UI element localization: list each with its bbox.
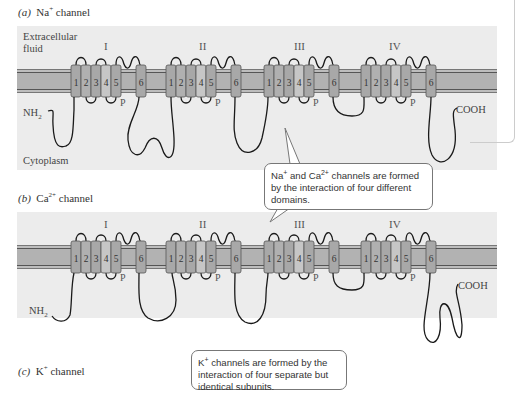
callout-line3: domains. [271,194,426,206]
svg-text:3: 3 [189,78,194,88]
svg-text:4: 4 [394,254,399,264]
callout-line3: identical subunits. [198,381,340,393]
svg-text:5: 5 [404,78,409,88]
svg-text:2: 2 [84,78,89,88]
callout-na-ca: Na+ and Ca2+ channels are formed by the … [264,163,433,210]
callout-k: K+ channels are formed by the interactio… [191,350,347,390]
svg-text:P: P [410,97,416,108]
svg-text:2: 2 [84,254,89,264]
svg-text:6: 6 [234,254,239,264]
svg-text:1: 1 [74,78,79,88]
svg-text:6: 6 [332,78,337,88]
svg-text:4: 4 [199,78,204,88]
svg-text:2: 2 [374,78,379,88]
svg-text:P: P [313,272,319,283]
svg-text:6: 6 [139,254,144,264]
svg-text:1: 1 [364,254,369,264]
svg-text:1: 1 [169,254,174,264]
svg-text:5: 5 [209,254,214,264]
svg-text:P: P [215,272,221,283]
svg-text:3: 3 [189,254,194,264]
text: channels are formed by the [209,357,328,368]
svg-text:6: 6 [332,254,337,264]
svg-text:2: 2 [374,254,379,264]
svg-text:2: 2 [277,254,282,264]
svg-text:5: 5 [114,254,119,264]
svg-text:4: 4 [104,254,109,264]
callout-line1: Na+ and Ca2+ channels are formed [271,167,426,182]
svg-text:P: P [215,97,221,108]
svg-text:4: 4 [297,254,302,264]
sup: 2+ [321,169,329,176]
svg-text:6: 6 [234,78,239,88]
svg-text:2: 2 [277,78,282,88]
svg-text:1: 1 [267,254,272,264]
text: Na [271,170,283,181]
svg-text:5: 5 [209,78,214,88]
svg-text:4: 4 [104,78,109,88]
svg-text:3: 3 [94,78,99,88]
svg-text:3: 3 [94,254,99,264]
svg-text:4: 4 [297,78,302,88]
svg-text:5: 5 [307,254,312,264]
text: and Ca [287,170,321,181]
callout-line1: K+ channels are formed by the [198,354,340,369]
svg-text:4: 4 [199,254,204,264]
svg-text:2: 2 [179,254,184,264]
svg-text:2: 2 [179,78,184,88]
svg-text:1: 1 [267,78,272,88]
svg-text:6: 6 [429,78,434,88]
svg-text:3: 3 [384,78,389,88]
callout-tail-down [270,208,290,222]
svg-text:5: 5 [307,78,312,88]
callout-line2: interaction of four separate but [198,369,340,381]
callout-line2: by the interaction of four different [271,182,426,194]
text: channels are formed [329,170,419,181]
callout-tail-up [285,128,300,164]
svg-text:P: P [410,272,416,283]
svg-text:3: 3 [287,254,292,264]
svg-text:P: P [120,272,126,283]
svg-text:3: 3 [287,78,292,88]
svg-text:4: 4 [394,78,399,88]
svg-text:3: 3 [384,254,389,264]
svg-text:P: P [120,97,126,108]
svg-text:1: 1 [364,78,369,88]
svg-text:6: 6 [429,254,434,264]
loops-b [52,273,462,342]
loops-a [48,97,457,162]
svg-text:6: 6 [139,78,144,88]
svg-text:5: 5 [404,254,409,264]
svg-text:1: 1 [169,78,174,88]
svg-text:1: 1 [74,254,79,264]
svg-text:5: 5 [114,78,119,88]
svg-text:P: P [313,97,319,108]
